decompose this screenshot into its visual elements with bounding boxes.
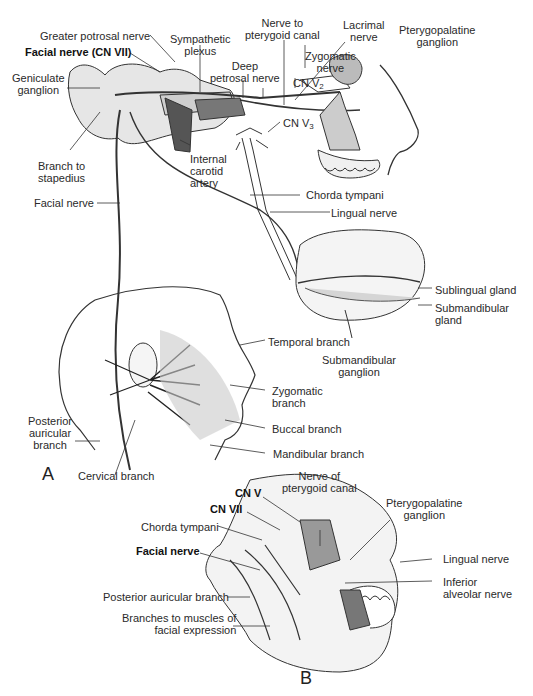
label-posterior-auricular-branch-a: Posterior auricular branch [28,415,72,451]
label-buccal-branch: Buccal branch [272,423,342,435]
label-deep-petrosal-nerve: Deep petrosal nerve [210,60,280,84]
label-posterior-auricular-branch-b: Posterior auricular branch [103,591,229,603]
label-chorda-tympani-b: Chorda tympani [141,521,219,533]
facial-nerve-diagram: Greater potrosal nerve Sympathetic plexu… [0,0,533,696]
label-geniculate-ganglion: Geniculate ganglion [12,72,65,96]
label-cervical-branch: Cervical branch [78,470,154,482]
label-pterygopalatine-ganglion-a: Pterygopalatine ganglion [399,24,475,48]
label-chorda-tympani-a: Chorda tympani [306,189,384,201]
label-mandibular-branch: Mandibular branch [273,448,364,460]
label-lingual-nerve-a: Lingual nerve [331,207,397,219]
label-sublingual-gland: Sublingual gland [435,284,516,296]
label-cn-vii: CN VII [210,503,242,515]
label-inferior-alveolar-nerve: Inferior alveolar nerve [443,576,512,600]
label-branch-to-stapedius: Branch to stapedius [38,160,85,184]
label-zygomatic-branch: Zygomatic branch [272,385,323,409]
label-submandibular-gland: Submandibular gland [435,302,509,326]
label-temporal-branch: Temporal branch [268,336,350,348]
label-branches-facial-expression: Branches to muscles of facial expression [122,612,236,636]
panel-label-a: A [42,464,54,485]
label-facial-nerve-a: Facial nerve [34,197,94,209]
label-submandibular-ganglion: Submandibular ganglion [322,354,396,378]
label-zygomatic-nerve: Zygomatic nerve [305,50,356,74]
label-internal-carotid-artery: Internal carotid artery [190,153,227,189]
label-cn-v3: CN V3 [283,117,314,133]
label-greater-petrosal-nerve: Greater potrosal nerve [40,30,150,42]
panel-label-b: B [300,668,312,689]
label-facial-nerve-b: Facial nerve [136,545,200,557]
label-cn-v2: CN V2 [293,77,324,93]
label-pterygopalatine-ganglion-b: Pterygopalatine ganglion [386,497,462,521]
label-nerve-of-pterygoid-canal: Nerve of pterygoid canal [282,470,357,494]
label-facial-nerve-cn-vii: Facial nerve (CN VII) [25,46,131,58]
label-lacrimal-nerve: Lacrimal nerve [343,19,385,43]
label-cn-v: CN V [235,487,261,499]
label-lingual-nerve-b: Lingual nerve [443,553,509,565]
label-sympathetic-plexus: Sympathetic plexus [170,33,231,57]
label-nerve-to-pterygoid-canal: Nerve to pterygoid canal [245,17,320,41]
